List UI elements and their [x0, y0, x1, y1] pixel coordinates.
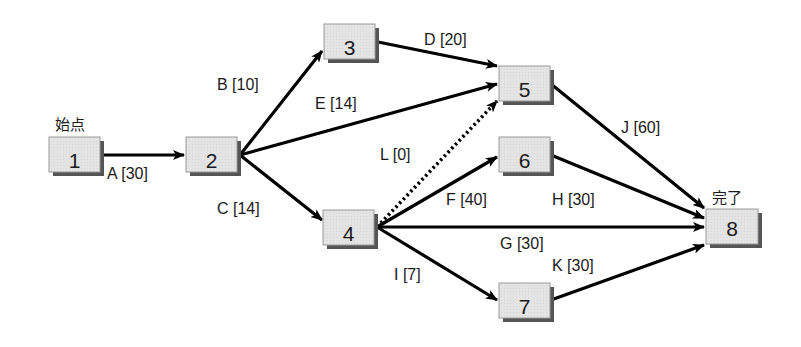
node-3: 3 [324, 24, 379, 63]
edge-label-j: J [60] [621, 119, 660, 136]
node-4: 4 [323, 210, 378, 249]
edge-label-d: D [20] [424, 31, 467, 48]
node-6-label: 6 [519, 149, 531, 172]
node-8-label: 8 [726, 217, 738, 240]
edge-label-l: L [0] [380, 146, 411, 163]
node-7-label: 7 [519, 295, 531, 318]
node-5: 5 [499, 66, 554, 105]
edge-label-e: E [14] [315, 95, 357, 112]
edge-label-a: A [30] [107, 165, 148, 182]
arrow-diagram: 1 2 3 4 5 6 [0, 0, 801, 347]
edge-label-f: F [40] [446, 191, 487, 208]
edge-l-dummy [377, 101, 497, 227]
node-3-label: 3 [344, 36, 356, 59]
edge-b [240, 51, 322, 155]
end-caption: 完了 [712, 189, 742, 207]
edge-i [377, 227, 497, 300]
node-7: 7 [499, 283, 554, 322]
node-4-label: 4 [343, 222, 355, 245]
edge-label-b: B [10] [217, 76, 259, 93]
node-8: 8 [706, 209, 762, 248]
node-5-label: 5 [519, 78, 531, 101]
node-1-label: 1 [69, 149, 81, 172]
edge-label-k: K [30] [552, 257, 594, 274]
edge-label-c: C [14] [217, 200, 260, 217]
edge-j [551, 84, 704, 208]
node-6: 6 [499, 137, 554, 176]
edge-h [551, 155, 704, 218]
node-2-label: 2 [206, 149, 218, 172]
edge-e [240, 84, 497, 155]
edge-label-h: H [30] [552, 191, 595, 208]
edge-label-g: G [30] [500, 235, 544, 252]
node-1: 1 [49, 137, 104, 176]
edge-label-i: I [7] [394, 266, 421, 283]
node-2: 2 [186, 137, 241, 176]
start-caption: 始点 [55, 116, 85, 134]
